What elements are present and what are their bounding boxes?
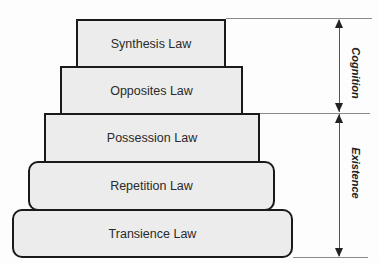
guide-line-middle [260,113,370,114]
arrow-down-icon [335,248,343,257]
arrow-down-icon [335,103,343,112]
cognition-label: Cognition [350,47,362,98]
tier-label: Repetition Law [110,179,193,193]
tier-label: Possession Law [107,131,197,145]
tier-transience-law: Transience Law [12,209,293,258]
existence-label: Existence [350,147,362,198]
tier-label: Synthesis Law [111,37,192,51]
tier-opposites-law: Opposites Law [60,66,243,115]
tier-possession-law: Possession Law [44,113,260,163]
existence-dimension-line [339,114,340,256]
guide-line-top [226,18,372,19]
arrow-up-icon [335,19,343,28]
tier-label: Transience Law [109,227,197,241]
tier-synthesis-law: Synthesis Law [76,19,226,68]
tier-repetition-law: Repetition Law [28,161,275,211]
arrow-up-icon [335,114,343,123]
tier-label: Opposites Law [110,84,193,98]
guide-line-bottom [293,257,368,258]
cognition-dimension-line [339,20,340,112]
